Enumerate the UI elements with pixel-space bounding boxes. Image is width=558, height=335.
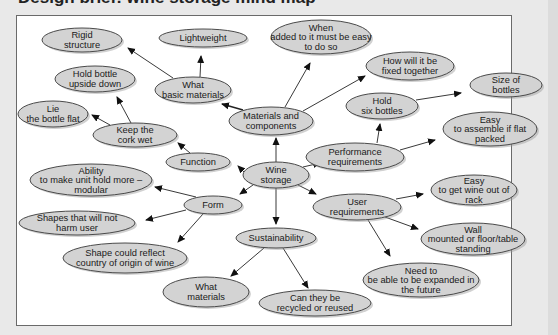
node-label: Can they be	[290, 293, 340, 303]
node-label: How will it be	[383, 56, 437, 66]
node-label: storage	[260, 175, 291, 185]
node-how-fixed: How will it befixed together	[366, 52, 456, 82]
node-function: Function	[166, 153, 232, 173]
node-label: Hold	[372, 96, 391, 106]
node-label: bottles	[492, 85, 520, 95]
node-label: Hold bottle	[73, 69, 117, 79]
node-hold-six-bottles: Holdsix bottles	[346, 93, 420, 121]
node-label: upside down	[69, 79, 121, 89]
node-what-basic-materials: Whatbasic materials	[155, 77, 233, 105]
node-performance-requirements: Performancerequirements	[306, 143, 406, 173]
arrow-what-basic-materials-to-rigid-structure	[128, 48, 173, 78]
node-easy-assemble: Easyto assemble if flatpacked	[443, 112, 539, 148]
node-label: Size of	[492, 75, 521, 85]
node-label: structure	[64, 40, 100, 50]
node-label: mounted or floor/table	[428, 234, 518, 244]
arrow-materials-components-to-when-added	[285, 63, 310, 107]
node-label: cork wet	[118, 135, 153, 145]
node-label: When	[309, 23, 333, 33]
arrow-sustainability-to-what-materials	[231, 248, 264, 276]
node-label: requirements	[330, 207, 385, 217]
node-label: country of origin of wine	[76, 258, 174, 268]
node-keep-cork-wet: Keep thecork wet	[93, 123, 179, 149]
node-label: standing	[455, 244, 490, 254]
node-what-materials: Whatmaterials	[163, 277, 251, 309]
node-label: Wine	[265, 165, 286, 175]
node-hold-upside-down: Hold bottleupside down	[55, 66, 137, 94]
arrow-form-to-ability-modular	[155, 187, 196, 197]
node-label: requirements	[328, 157, 383, 167]
arrow-keep-cork-wet-to-lie-flat	[92, 115, 110, 125]
arrow-form-to-shape-reflect-country	[178, 214, 203, 242]
node-shape-reflect-country: Shape could reflectcountry of origin of …	[63, 243, 189, 275]
node-label: Shapes that will not	[37, 213, 118, 223]
node-rigid-structure: Rigidstructure	[42, 28, 124, 54]
arrow-wine-storage-to-form	[240, 185, 253, 194]
node-label: basic materials	[162, 90, 224, 100]
node-label: materials	[187, 292, 225, 302]
node-label: Keep the	[116, 125, 153, 135]
node-when-added: Whenadded to it must be easyto do so	[270, 20, 373, 56]
node-label: be able to be expanded in	[367, 275, 474, 285]
node-label: added to it must be easy	[270, 32, 372, 42]
node-label: Lie	[47, 104, 59, 114]
arrow-hold-six-bottles-to-size-of-bottles	[416, 93, 461, 100]
node-label: to do so	[304, 42, 337, 52]
node-easy-get-wine: Easyto get wine out ofrack	[431, 175, 519, 207]
node-label: Shape could reflect	[85, 248, 165, 258]
node-label: Function	[180, 157, 216, 167]
node-label: What	[195, 282, 217, 292]
node-label: Ability	[79, 166, 104, 176]
node-label: to assemble if flat	[454, 124, 527, 134]
arrow-sustainability-to-recycled-reused	[283, 248, 308, 288]
node-label: Rigid	[71, 30, 92, 40]
node-label: the bottle flat	[26, 114, 80, 124]
arrow-user-requirements-to-wall-mounted	[385, 217, 418, 229]
node-label: to make unit hold more –	[40, 175, 143, 185]
node-wine-storage: Winestorage	[243, 162, 311, 190]
node-label: components	[246, 121, 297, 131]
node-label: Sustainability	[249, 233, 304, 243]
arrow-wine-storage-to-function	[238, 166, 244, 172]
node-label: six bottles	[361, 106, 403, 116]
node-sustainability: Sustainability	[236, 228, 318, 250]
node-label: Materials and	[243, 111, 299, 121]
node-shapes-not-harm: Shapes that will notharm user	[19, 211, 137, 237]
node-user-requirements: Userrequirements	[313, 194, 403, 222]
node-lie-flat: Liethe bottle flat	[18, 101, 90, 129]
node-form: Form	[184, 196, 244, 216]
nodes-layer: WinestorageMaterials andcomponentsWhatba…	[18, 20, 544, 318]
node-label: packed	[475, 134, 505, 144]
node-label: to get wine out of	[439, 185, 510, 195]
node-need-expanded: Need tobe able to be expanded inthe futu…	[363, 263, 481, 299]
node-materials-components: Materials andcomponents	[229, 107, 315, 137]
node-label: recycled or reused	[277, 303, 353, 313]
arrow-function-to-keep-cork-wet	[178, 143, 190, 153]
arrow-user-requirements-to-easy-get-wine	[396, 194, 423, 199]
node-label: Easy	[464, 176, 485, 186]
node-wall-mounted: Wallmounted or floor/tablestanding	[421, 223, 527, 257]
arrow-user-requirements-to-need-expanded	[368, 220, 390, 256]
arrow-performance-requirements-to-hold-six-bottles	[377, 124, 380, 143]
arrow-keep-cork-wet-to-hold-upside-down	[117, 97, 131, 123]
arrow-form-to-shapes-not-harm	[146, 210, 186, 220]
node-label: Wall	[464, 225, 482, 235]
node-label: Need to	[405, 266, 438, 276]
node-label: Lightweight	[179, 33, 226, 43]
node-label: Form	[202, 200, 224, 210]
node-label: What	[182, 80, 204, 90]
node-label: the future	[401, 285, 440, 295]
mind-map-diagram: WinestorageMaterials andcomponentsWhatba…	[0, 0, 558, 335]
node-label: harm user	[56, 223, 98, 233]
arrow-performance-requirements-to-easy-assemble	[400, 140, 435, 150]
node-lightweight: Lightweight	[159, 29, 249, 49]
node-label: Easy	[480, 115, 501, 125]
node-label: Performance	[328, 147, 381, 157]
arrow-materials-components-to-what-basic-materials	[222, 104, 243, 110]
arrow-what-basic-materials-to-lightweight	[200, 56, 201, 77]
node-ability-modular: Abilityto make unit hold more –modular	[30, 164, 154, 198]
node-label: rack	[465, 195, 483, 205]
node-label: modular	[74, 185, 108, 195]
node-label: User	[347, 197, 367, 207]
node-size-of-bottles: Size ofbottles	[470, 73, 544, 99]
